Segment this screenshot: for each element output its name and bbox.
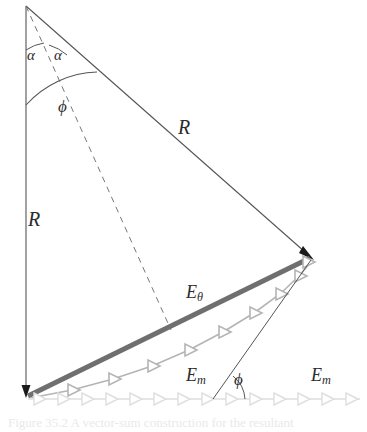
figure-caption-strip: Figure 35.2 A vector-sum construction fo… (0, 417, 367, 432)
chain-arrowhead (178, 393, 190, 405)
phasor-chain-light (28, 393, 360, 405)
chain-arrowhead (322, 393, 334, 405)
label-alpha-left: α (27, 48, 35, 63)
label-diagonal-radius: R (178, 117, 190, 137)
chain-arrowhead (154, 393, 166, 405)
label-E-m-inner-base: E (186, 365, 197, 385)
label-E-m-outer: Em (311, 366, 331, 387)
label-E-m-outer-base: E (311, 365, 322, 385)
bisector-dash (26, 6, 171, 330)
left-radius-vector (22, 6, 31, 398)
diagonal-radius-line (26, 6, 305, 252)
label-E-theta-sub: θ (197, 290, 203, 304)
label-E-m-outer-sub: m (322, 373, 331, 387)
chain-arrowhead (346, 393, 358, 405)
label-phi-apex: ϕ (58, 98, 67, 115)
diagonal-radius-vector (26, 6, 314, 260)
chain-arrowhead (276, 288, 288, 300)
chain-arrowhead (202, 393, 214, 405)
label-E-theta-base: E (186, 282, 197, 302)
chain-arrowhead (68, 384, 80, 396)
chain-arrowhead (82, 393, 94, 405)
chain-arrowhead (109, 373, 121, 385)
figure-container: R R α α ϕ ϕ Eθ Em Em Figure 35.2 A vecto… (0, 0, 367, 432)
chain-arrowhead (274, 393, 286, 405)
label-left-radius: R (28, 209, 40, 229)
label-phi-bottom: ϕ (234, 371, 243, 388)
label-E-m-inner: Em (186, 366, 206, 387)
label-E-m-inner-sub: m (197, 373, 206, 387)
label-E-theta: Eθ (186, 283, 203, 304)
resultant-thick-line (28, 258, 310, 396)
chain-arrowhead (185, 344, 197, 356)
chain-arrowhead (298, 393, 310, 405)
angle-bisector-dashed-line (26, 6, 171, 330)
chain-arrowhead (130, 393, 142, 405)
chain-arrowhead (148, 360, 160, 372)
label-alpha-right: α (54, 48, 62, 63)
chain-arrowhead (250, 393, 262, 405)
figure-caption-text: Figure 35.2 A vector-sum construction fo… (8, 417, 294, 431)
chain-arrowhead (106, 393, 118, 405)
resultant-vector-E-theta (28, 258, 310, 396)
chain-arrowhead (226, 393, 238, 405)
